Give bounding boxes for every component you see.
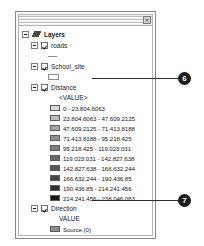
callout-marker-7: 7 <box>178 194 191 207</box>
tree-item-roads[interactable]: roads <box>19 40 152 51</box>
direction-class-list: Source (0)Right (1)Lower-Right (2) <box>19 224 152 236</box>
tree-item-label: Distance <box>51 84 76 91</box>
close-icon[interactable]: × <box>143 16 151 24</box>
legend-class-row[interactable]: 214.241.456 - 238.046.063 <box>19 193 152 203</box>
layers-stack-icon <box>32 31 41 39</box>
legend-class-label: 47.609.2125 - 71.413.8188 <box>63 125 135 132</box>
legend-class-row[interactable]: Source (0) <box>19 224 152 234</box>
legend-class-label: 166.632.244 - 190.436.85 <box>63 175 131 182</box>
tree-item-label: roads <box>51 42 67 49</box>
symbol-row-school-site <box>19 72 152 82</box>
callout-marker-6: 6 <box>178 72 191 85</box>
legend-class-label: 190.436.85 - 214.241.456 <box>63 185 131 192</box>
legend-color-swatch[interactable] <box>50 135 60 141</box>
legend-color-swatch[interactable] <box>50 155 60 161</box>
tree-item-label: Layers <box>44 31 65 38</box>
legend-class-row[interactable]: 166.632.244 - 190.436.85 <box>19 173 152 183</box>
line-symbol-icon <box>48 56 57 57</box>
legend-class-row[interactable]: 119.023.031 - 142.827.638 <box>19 153 152 163</box>
legend-class-row[interactable]: 190.436.85 - 214.241.456 <box>19 183 152 193</box>
tree-item-layers[interactable]: Layers <box>19 29 152 40</box>
layer-visibility-checkbox[interactable] <box>41 63 48 70</box>
legend-class-row[interactable]: 23.804.6063 - 47.609.2125 <box>19 113 152 123</box>
tree-item-school-site[interactable]: School_site <box>19 61 152 72</box>
legend-class-label: 142.827.638 - 166.632.244 <box>63 165 135 172</box>
legend-color-swatch[interactable] <box>50 165 60 171</box>
callout-leader-line <box>92 78 179 79</box>
table-of-contents-inner: × Layers roads <box>18 14 153 236</box>
legend-class-row[interactable]: 0 - 23.804.6063 <box>19 103 152 113</box>
symbol-row-roads <box>19 51 152 61</box>
callout-leader-line <box>92 200 179 201</box>
expander-icon[interactable] <box>22 31 29 38</box>
layer-visibility-checkbox[interactable] <box>41 84 48 91</box>
expander-icon[interactable] <box>31 205 38 212</box>
tree-item-label: Direction <box>51 205 77 212</box>
expander-icon[interactable] <box>31 63 38 70</box>
legend-class-row[interactable]: Right (1) <box>19 234 152 236</box>
legend-class-label: 95.218.425 - 119.023.031 <box>63 145 131 152</box>
value-field-header: VALUE <box>19 214 152 224</box>
tree-item-direction[interactable]: Direction <box>19 203 152 214</box>
legend-class-label: 71.413.8188 - 95.218.425 <box>63 135 131 142</box>
distance-class-list: 0 - 23.804.606323.804.6063 - 47.609.2125… <box>19 103 152 203</box>
tree-item-distance[interactable]: Distance <box>19 82 152 93</box>
table-of-contents-panel[interactable]: × Layers roads <box>15 11 156 239</box>
legend-color-swatch[interactable] <box>50 105 60 111</box>
legend-color-swatch[interactable] <box>50 185 60 191</box>
expander-icon[interactable] <box>31 42 38 49</box>
legend-class-label: 119.023.031 - 142.827.638 <box>63 155 134 162</box>
legend-class-label: 0 - 23.804.6063 <box>63 105 105 112</box>
legend-class-label: Right (1) <box>63 236 86 237</box>
legend-color-swatch[interactable] <box>50 145 60 151</box>
legend-class-label: Source (0) <box>63 226 91 233</box>
expander-icon[interactable] <box>31 84 38 91</box>
polygon-outline-symbol-icon <box>48 74 59 80</box>
legend-class-label: 23.804.6063 - 47.609.2125 <box>63 115 135 122</box>
legend-class-row[interactable]: 142.827.638 - 166.632.244 <box>19 163 152 173</box>
legend-class-row[interactable]: 47.609.2125 - 71.413.8188 <box>19 123 152 133</box>
legend-class-row[interactable]: 71.413.8188 - 95.218.425 <box>19 133 152 143</box>
legend-color-swatch[interactable] <box>50 125 60 131</box>
legend-color-swatch[interactable] <box>50 195 60 201</box>
legend-color-swatch[interactable] <box>50 226 60 232</box>
legend-color-swatch[interactable] <box>50 115 60 121</box>
legend-class-row[interactable]: 95.218.425 - 119.023.031 <box>19 143 152 153</box>
layer-tree[interactable]: Layers roads School_site <box>19 26 152 236</box>
layer-visibility-checkbox[interactable] <box>41 205 48 212</box>
panel-titlebar[interactable]: × <box>19 15 152 26</box>
legend-color-swatch[interactable] <box>50 175 60 181</box>
layer-visibility-checkbox[interactable] <box>41 42 48 49</box>
tree-item-label: School_site <box>51 63 85 70</box>
value-field-header: <VALUE> <box>19 93 152 103</box>
